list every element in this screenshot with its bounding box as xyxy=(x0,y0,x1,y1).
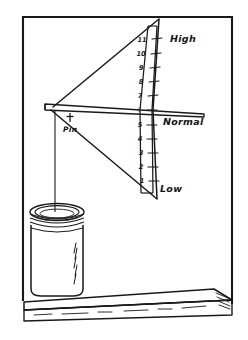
scale-mark-3: 3 xyxy=(139,149,144,157)
label-low: Low xyxy=(160,183,182,194)
scale-mark-7: 7 xyxy=(138,92,143,100)
scale-mark-1: 1 xyxy=(140,177,145,185)
hygrometer-figure: 11 10 9 8 7 6 5 4 3 2 1 xyxy=(0,0,248,340)
scale-mark-11: 11 xyxy=(137,36,146,44)
scale-mark-8: 8 xyxy=(139,78,144,86)
scale-mark-4: 4 xyxy=(138,135,143,143)
scale-mark-9: 9 xyxy=(139,64,144,72)
scale-mark-2: 2 xyxy=(139,163,144,171)
scale-mark-10: 10 xyxy=(136,50,146,58)
label-pin: Pin xyxy=(63,125,77,134)
diagram-canvas: 11 10 9 8 7 6 5 4 3 2 1 xyxy=(0,0,248,340)
scale-mark-5: 5 xyxy=(138,121,143,129)
label-normal: Normal xyxy=(163,116,204,127)
label-high: High xyxy=(170,33,196,44)
